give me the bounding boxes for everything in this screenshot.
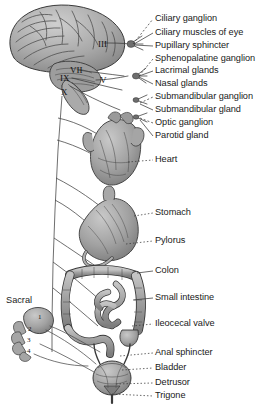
heart-illustration [83,112,144,185]
leader-anal-sphincter [120,353,153,356]
leader-ciliary-ganglion [133,19,153,44]
label-lacrimal-glands: Lacrimal glands [155,66,219,75]
cranial-nerve-v: V [100,76,107,85]
label-ciliary-muscles-of-eye: Ciliary muscles of eye [155,28,243,37]
leader-pupillary-sphincter [134,45,153,46]
sacral-segment-2: 2 [28,326,32,333]
cranial-nerve-iii: III [98,40,107,49]
brain-illustration [10,5,125,114]
stomach-illustration [79,186,138,267]
leader-stomach [134,213,153,216]
ganglion-nodes [127,41,140,120]
sacral-label: Sacral [6,296,32,305]
leader-ciliary-muscles-of-eye [134,33,153,44]
parasympathetic-diagram: IIIVIIIXXV Sacral 1234 Ciliary ganglionC… [0,0,271,407]
label-submandibular-gland: Submandibular gland [155,105,241,114]
label-anal-sphincter: Anal sphincter [155,348,213,357]
label-ciliary-ganglion: Ciliary ganglion [155,14,217,23]
label-parotid-gland: Parotid gland [155,131,209,140]
cranial-nerve-ix: IX [60,74,70,83]
cranial-nerve-vii: VII [70,66,83,75]
label-nasal-glands: Nasal glands [155,79,208,88]
label-pupillary-sphincter: Pupillary sphincter [155,41,229,50]
label-detrusor: Detrusor [155,378,190,387]
sacral-segment-3: 3 [27,337,31,344]
label-small-intestine: Small intestine [155,293,214,302]
sacral-segment-1: 1 [38,314,42,321]
colon-illustration [63,267,142,354]
cranial-nerve-x: X [61,88,68,97]
small-intestine-illustration [97,284,122,326]
label-bladder: Bladder [155,363,186,372]
label-submandibular-ganglion: Submandibular ganglion [155,92,253,101]
label-optic-ganglion: Optic ganglion [155,118,213,127]
leader-colon [137,271,153,273]
label-stomach: Stomach [155,208,191,217]
label-trigone: Trigone [155,391,185,400]
label-ileocecal-valve: Ileocecal valve [155,319,215,328]
label-sphenopalatine-ganglion: Sphenopalatine ganglion [155,54,255,63]
label-heart: Heart [155,155,177,164]
label-colon: Colon [155,266,179,275]
label-pylorus: Pylorus [155,236,185,245]
leader-submandibular-gland [140,104,153,110]
sacral-segment-4: 4 [27,348,31,355]
